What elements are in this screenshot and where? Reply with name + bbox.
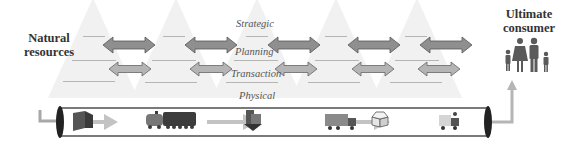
delivery-van-icon — [439, 112, 459, 130]
raw-material-block-icon — [73, 111, 93, 131]
truck-icon — [325, 114, 356, 130]
pipe-contents — [0, 0, 566, 147]
package-box-icon — [372, 112, 388, 127]
train-icon — [146, 111, 196, 129]
